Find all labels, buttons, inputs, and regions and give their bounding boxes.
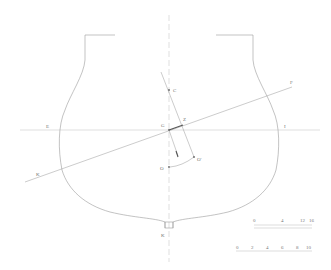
svg-text:0: 0 — [253, 218, 256, 223]
label-c: C — [173, 88, 177, 93]
label-k: K — [36, 172, 40, 177]
scale-bar-top: 0 4 12 16 — [253, 218, 315, 228]
label-g: G — [161, 123, 165, 128]
metacentric-line — [161, 72, 194, 157]
point-g — [168, 129, 170, 131]
point-c — [168, 89, 170, 91]
point-o1 — [193, 156, 195, 158]
svg-text:6: 6 — [281, 245, 284, 250]
label-i: I — [284, 124, 286, 129]
point-o — [168, 166, 170, 168]
righting-arm-gz[interactable] — [169, 125, 183, 130]
svg-text:16: 16 — [309, 218, 315, 223]
svg-text:4: 4 — [281, 218, 284, 223]
label-o: O — [160, 166, 164, 171]
label-e: E — [46, 124, 49, 129]
buoyancy-arc — [170, 157, 194, 167]
svg-text:0: 0 — [236, 245, 239, 250]
label-f: F — [290, 80, 293, 85]
scale-bar-bottom: 0 2 4 6 8 10 — [236, 245, 312, 251]
svg-text:8: 8 — [296, 245, 299, 250]
label-o1: O' — [197, 157, 202, 162]
stability-diagram: C G Z O O' E I F K K 0 4 12 16 0 2 4 6 8… — [0, 0, 331, 270]
arrow-segment — [176, 151, 178, 157]
svg-text:4: 4 — [266, 245, 269, 250]
svg-text:10: 10 — [306, 245, 312, 250]
inclined-waterline — [25, 87, 292, 182]
label-z: Z — [183, 117, 186, 122]
svg-text:12: 12 — [300, 218, 306, 223]
label-keel: K — [161, 233, 165, 238]
svg-text:2: 2 — [251, 245, 254, 250]
